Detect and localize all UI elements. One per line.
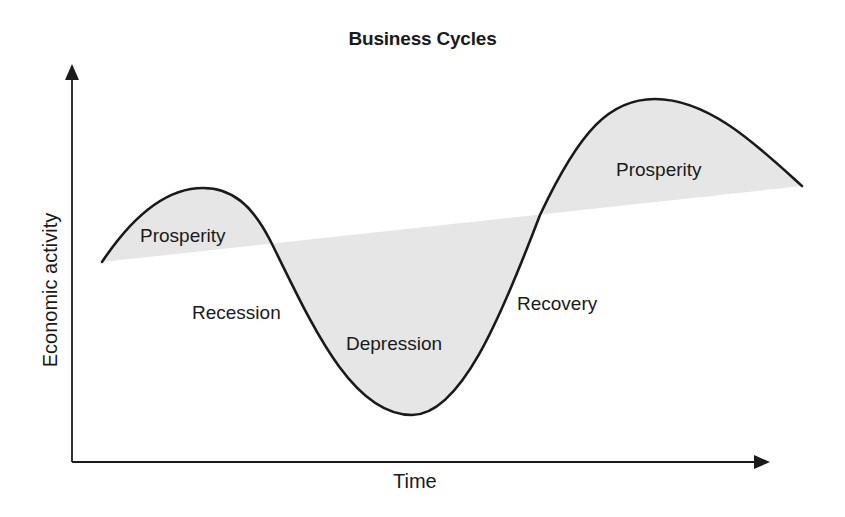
y-axis-label: Economic activity [39,213,62,368]
label-prosperity-1: Prosperity [140,225,226,247]
x-axis-label: Time [393,470,437,493]
business-cycle-diagram [0,0,845,517]
x-axis-arrow-icon [754,455,770,469]
label-depression: Depression [346,333,442,355]
label-prosperity-2: Prosperity [616,159,702,181]
label-recession: Recession [192,302,281,324]
label-recovery: Recovery [517,293,597,315]
shaded-area [102,99,802,415]
y-axis-arrow-icon [65,64,79,80]
